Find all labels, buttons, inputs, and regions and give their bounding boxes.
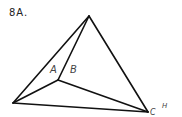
edge-apex-right (89, 16, 148, 112)
vertex-label-c: C (150, 108, 156, 117)
face-label-a: A (49, 64, 57, 75)
edge-apex-left (13, 16, 89, 103)
edge-left-interior (13, 80, 58, 103)
tetrahedron-diagram: A B C H (0, 0, 182, 117)
tetrahedron-figure: 8A. A B C H (0, 0, 182, 117)
vertex-label-h: H (162, 102, 168, 110)
face-label-b: B (70, 64, 77, 75)
